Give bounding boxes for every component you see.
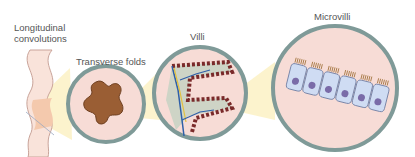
label-transverse-folds: Transverse folds [76, 56, 146, 67]
label-line-2: convolutions [14, 33, 67, 44]
villi-circle [154, 47, 246, 139]
label-villi: Villi [190, 31, 205, 42]
label-longitudinal-convolutions: Longitudinal convolutions [14, 22, 67, 44]
label-line-1: Longitudinal [14, 22, 67, 33]
microvilli-circle [273, 26, 397, 150]
transverse-folds-circle [68, 66, 144, 142]
label-microvilli: Microvilli [314, 11, 350, 22]
longitudinal-convolution-tube [26, 50, 54, 157]
